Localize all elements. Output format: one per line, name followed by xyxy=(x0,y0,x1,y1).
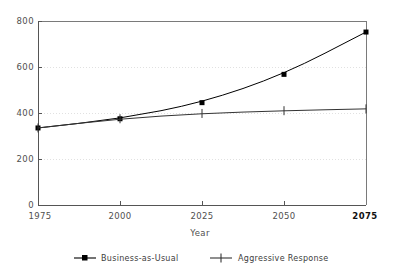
x-tick-label-2075: 2075 xyxy=(352,211,377,221)
line-chart: 800 600 400 200 0 1975 2000 2025 2050 20… xyxy=(0,0,395,275)
square-marker xyxy=(82,255,88,261)
x-tick-label-2050: 2050 xyxy=(272,211,295,221)
x-tick-label-2025: 2025 xyxy=(190,211,213,221)
y-axis-tick-labels: 800 600 400 200 0 xyxy=(17,16,34,210)
y-tick-label-600: 600 xyxy=(17,62,34,72)
x-tick-label-2000: 2000 xyxy=(108,211,131,221)
chart-legend: Business-as-Usual Aggressive Response xyxy=(74,254,329,264)
series-aggressive-response xyxy=(38,104,366,132)
square-marker xyxy=(364,30,369,35)
chart-canvas: 800 600 400 200 0 1975 2000 2025 2050 20… xyxy=(0,0,395,275)
legend-item-aggressive-response[interactable]: Aggressive Response xyxy=(210,254,329,264)
square-marker xyxy=(282,72,287,77)
y-tick-label-0: 0 xyxy=(28,200,34,210)
y-tick-label-400: 400 xyxy=(17,108,34,118)
y-tick-label-200: 200 xyxy=(17,154,34,164)
x-axis-title: Year xyxy=(189,228,210,238)
y-axis-ticks xyxy=(38,21,42,159)
x-axis-ticks xyxy=(120,201,284,205)
y-tick-label-800: 800 xyxy=(17,16,34,26)
legend-item-business-as-usual[interactable]: Business-as-Usual xyxy=(74,254,178,263)
x-axis-tick-labels: 1975 2000 2025 2050 2075 xyxy=(28,211,377,221)
gridlines xyxy=(38,21,366,159)
x-tick-label-1975: 1975 xyxy=(28,211,51,221)
data-series-layer xyxy=(36,30,369,133)
legend-label-2: Aggressive Response xyxy=(238,254,329,263)
legend-label-1: Business-as-Usual xyxy=(101,254,178,263)
square-marker xyxy=(200,100,205,105)
